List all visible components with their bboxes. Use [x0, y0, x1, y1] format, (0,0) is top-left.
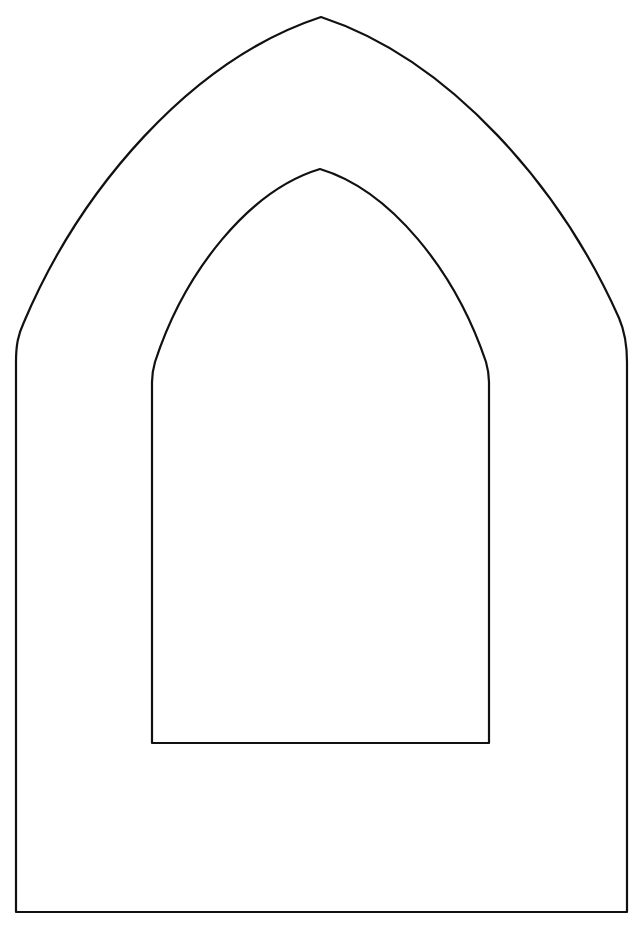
arch-frame-drawing [0, 0, 640, 931]
diagram-canvas: Gothic arch window frame outline [0, 0, 640, 931]
outer-arch-outline [16, 17, 627, 912]
inner-arch-opening [152, 169, 489, 743]
